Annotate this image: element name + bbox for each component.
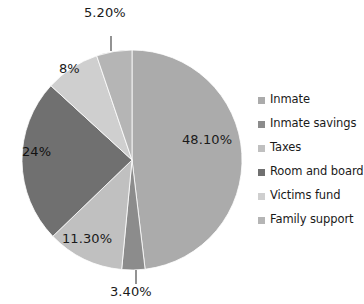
slice-label-room-and-board: 24% — [22, 145, 51, 158]
legend-swatch-icon — [258, 97, 265, 104]
legend-swatch-icon — [258, 121, 265, 128]
slice-label-inmate: 48.10% — [182, 133, 232, 146]
legend-item-label: Inmate savings — [270, 118, 356, 130]
legend-item-victims-fund[interactable]: Victims fund — [258, 186, 364, 206]
legend-swatch-icon — [258, 169, 265, 176]
legend-swatch-icon — [258, 217, 265, 224]
legend-item-taxes[interactable]: Taxes — [258, 138, 364, 158]
chart-legend: Inmate Inmate savings Taxes Room and boa… — [258, 90, 364, 234]
legend-item-room-and-board[interactable]: Room and board — [258, 162, 364, 182]
slice-label-family-support: 5.20% — [84, 6, 126, 19]
legend-item-label: Room and board — [270, 166, 364, 178]
pie-plot-area: 48.10% 3.40% 11.30% 24% 8% 5.20% — [0, 0, 256, 304]
slice-label-victims-fund: 8% — [59, 62, 80, 75]
legend-item-label: Inmate — [270, 94, 310, 106]
legend-item-family-support[interactable]: Family support — [258, 210, 364, 230]
slice-label-taxes: 11.30% — [62, 232, 112, 245]
legend-swatch-icon — [258, 145, 265, 152]
legend-item-inmate[interactable]: Inmate — [258, 90, 364, 110]
slice-label-inmate-savings: 3.40% — [110, 285, 152, 298]
legend-item-label: Taxes — [270, 142, 301, 154]
legend-item-label: Family support — [270, 214, 353, 226]
pie-slices-group — [22, 50, 242, 270]
pie-slice-inmate[interactable] — [132, 50, 242, 269]
pie-chart-figure: 48.10% 3.40% 11.30% 24% 8% 5.20% Inmate … — [0, 0, 364, 304]
legend-item-inmate-savings[interactable]: Inmate savings — [258, 114, 364, 134]
legend-swatch-icon — [258, 193, 265, 200]
legend-item-label: Victims fund — [270, 190, 340, 202]
